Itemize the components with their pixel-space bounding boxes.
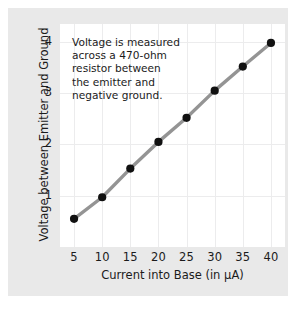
annotation-line: across a 470-ohm [72,49,208,62]
annotation-line: Voltage is measured [72,36,208,49]
annotation-line: resistor between [72,62,208,75]
annotation-line: negative ground. [72,89,208,102]
x-axis-label: Current into Base (in µA) [55,268,290,282]
data-point [126,164,134,172]
data-point [267,39,275,47]
y-axis-label-wrapper: Voltage between Emitter and Ground [33,15,52,255]
annotation-line: the emitter and [72,76,208,89]
data-point [98,193,106,201]
data-point [70,215,78,223]
data-point [211,87,219,95]
annotation-text: Voltage is measuredacross a 470-ohmresis… [72,36,208,102]
y-axis-label: Voltage between Emitter and Ground [37,28,51,242]
chart-figure: 510152025303540 1234 Voltage is measured… [0,0,294,309]
data-point [154,138,162,146]
data-point [182,114,190,122]
data-point [239,62,247,70]
